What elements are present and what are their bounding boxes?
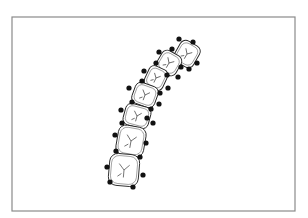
landmark-point bbox=[130, 184, 135, 189]
landmark-point bbox=[156, 49, 161, 54]
landmark-point bbox=[190, 39, 195, 44]
landmark-point bbox=[178, 64, 183, 69]
landmark-point bbox=[165, 85, 170, 90]
landmark-point bbox=[112, 132, 117, 137]
dental-landmark-diagram bbox=[0, 0, 308, 218]
tooth-molar-second bbox=[115, 124, 148, 158]
landmark-point bbox=[104, 164, 109, 169]
landmark-point bbox=[175, 74, 180, 79]
landmark-point bbox=[140, 172, 145, 177]
landmark-point bbox=[139, 78, 144, 83]
landmark-point bbox=[119, 120, 124, 125]
landmark-point bbox=[186, 66, 191, 71]
landmark-point bbox=[156, 101, 161, 106]
landmark-point bbox=[137, 154, 142, 159]
landmark-point bbox=[144, 115, 149, 120]
landmark-point bbox=[169, 46, 174, 51]
landmark-point bbox=[194, 60, 199, 65]
landmark-point bbox=[157, 90, 162, 95]
landmark-point bbox=[143, 140, 148, 145]
figure-frame bbox=[12, 17, 295, 211]
landmark-point bbox=[148, 106, 153, 111]
landmark-point bbox=[107, 179, 112, 184]
landmark-point bbox=[176, 36, 181, 41]
landmark-point bbox=[113, 148, 118, 153]
landmark-point bbox=[153, 60, 158, 65]
landmark-point bbox=[150, 120, 155, 125]
landmark-point bbox=[164, 72, 169, 77]
landmark-point bbox=[126, 85, 131, 90]
landmark-point bbox=[141, 68, 146, 73]
landmark-point bbox=[118, 107, 123, 112]
landmark-point bbox=[129, 99, 134, 104]
